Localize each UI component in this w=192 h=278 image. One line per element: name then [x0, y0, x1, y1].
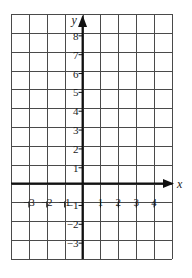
y-tick-label: 8: [73, 30, 79, 42]
x-tick-label: 1: [98, 196, 104, 208]
x-axis-label: x: [176, 177, 183, 191]
y-tick-labels: 87654321−1−2−3: [67, 30, 83, 249]
grid-lines: [11, 14, 173, 260]
x-tick-label: 4: [151, 196, 157, 208]
y-tick-label: 3: [73, 124, 79, 136]
y-axis-arrow-icon: [78, 15, 87, 27]
x-tick-label: 3: [133, 196, 139, 208]
y-tick-label: −1: [67, 199, 79, 211]
y-tick-label: 2: [73, 143, 79, 155]
y-tick-label: 5: [73, 86, 79, 98]
y-tick-label: 1: [73, 162, 79, 174]
coordinate-grid: x y −3−2−11234 87654321−1−2−3: [0, 0, 192, 278]
x-tick-label: −3: [23, 196, 35, 208]
y-tick-label: −3: [67, 237, 79, 249]
y-tick-label: 7: [73, 49, 79, 61]
x-tick-label: −2: [41, 196, 53, 208]
y-tick-label: −2: [67, 218, 79, 230]
y-axis-label: y: [71, 13, 78, 27]
x-tick-label: 2: [116, 196, 122, 208]
y-tick-label: 4: [73, 105, 79, 117]
y-tick-label: 6: [73, 68, 79, 80]
axes: x y: [11, 13, 183, 259]
